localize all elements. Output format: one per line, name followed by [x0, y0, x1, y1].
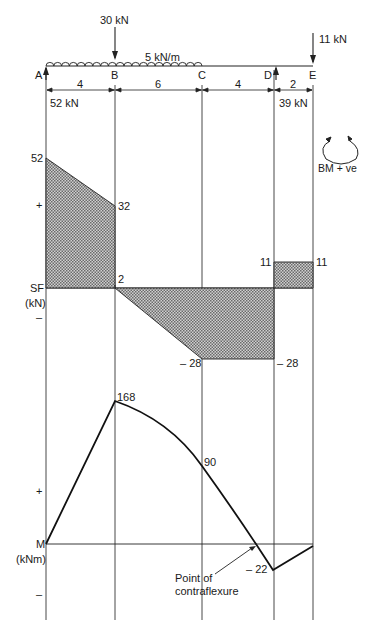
span-CD-label: 4 [235, 78, 241, 90]
point-B-label: B [111, 69, 118, 81]
point-load-B-label: 30 kN [100, 14, 129, 26]
bm-unit-label: (kNm) [16, 553, 46, 565]
beam-diagram [0, 0, 366, 640]
sf-value-A: 52 [31, 152, 43, 164]
udl-label: 5 kN/m [145, 51, 180, 63]
sf-region-AB [46, 158, 115, 288]
sf-region-BCD [115, 288, 274, 359]
reaction-A-label: 52 kN [50, 97, 79, 109]
sf-value-E: 11 [316, 256, 327, 268]
bending-moment-diagram [46, 401, 313, 574]
sf-value-B-left: 32 [118, 200, 130, 212]
sf-value-B-right: 2 [118, 273, 124, 285]
bm-value-B: 168 [117, 391, 135, 403]
bm-axis-label: M [36, 538, 45, 550]
sf-unit-label: (kN) [25, 297, 46, 309]
bm-sign-convention-icon [323, 136, 358, 164]
bm-value-C: 90 [204, 456, 216, 468]
point-E-label: E [309, 69, 316, 81]
span-AB-label: 4 [77, 78, 83, 90]
span-BC-label: 6 [155, 78, 161, 90]
bm-curve [46, 401, 313, 570]
sf-value-D-left: – 28 [277, 357, 298, 369]
shear-force-diagram [46, 158, 313, 359]
sign-convention-label: BM + ve [318, 162, 357, 174]
sf-region-DE [274, 262, 313, 288]
sf-value-C: – 28 [180, 357, 201, 369]
dimension-line [47, 88, 312, 92]
bm-plus-sign: + [36, 485, 42, 497]
point-A-label: A [35, 69, 42, 81]
point-load-arrow-E [310, 33, 316, 64]
point-D-label: D [264, 69, 272, 81]
bm-minus-sign: – [36, 588, 42, 600]
contraflexure-label-line1: Point of [175, 572, 212, 584]
span-DE-label: 2 [290, 78, 296, 90]
contraflexure-label-line2: contraflexure [175, 585, 239, 597]
reaction-arrow-A [43, 66, 49, 80]
point-load-arrow-B [112, 27, 118, 60]
sf-minus-sign: – [36, 311, 42, 323]
sf-axis-label: SF [30, 282, 44, 294]
bm-value-D: – 22 [246, 563, 267, 575]
reaction-D-label: 39 kN [279, 97, 308, 109]
sf-value-D-right: 11 [260, 256, 271, 268]
sf-plus-sign: + [36, 199, 42, 211]
point-C-label: C [198, 69, 206, 81]
point-load-E-label: 11 kN [319, 33, 347, 45]
